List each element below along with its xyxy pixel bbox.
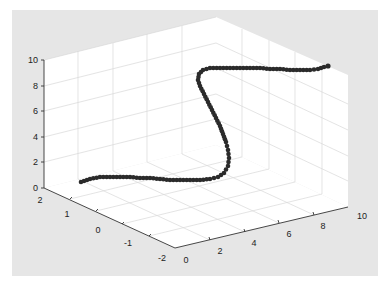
svg-text:8: 8 <box>320 221 325 231</box>
svg-text:4: 4 <box>33 132 38 142</box>
svg-text:4: 4 <box>251 238 256 248</box>
svg-text:10: 10 <box>357 211 367 221</box>
svg-text:2: 2 <box>217 246 222 256</box>
svg-text:0: 0 <box>95 225 100 235</box>
svg-text:6: 6 <box>286 229 291 239</box>
svg-text:2: 2 <box>33 157 38 167</box>
svg-text:10: 10 <box>28 55 38 65</box>
svg-text:0: 0 <box>183 255 188 265</box>
svg-text:-1: -1 <box>124 238 132 248</box>
svg-text:8: 8 <box>33 81 38 91</box>
figure: 10 8 6 4 2 0 2 1 0 -1 -2 0 2 4 6 8 10 <box>0 0 384 288</box>
svg-text:0: 0 <box>33 183 38 193</box>
svg-text:-2: -2 <box>158 253 166 263</box>
svg-text:1: 1 <box>64 209 69 219</box>
svg-text:6: 6 <box>33 106 38 116</box>
svg-text:2: 2 <box>37 195 42 205</box>
